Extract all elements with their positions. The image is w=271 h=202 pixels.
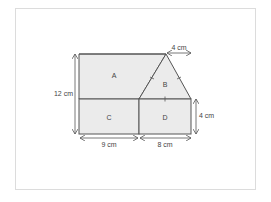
composite-shape-diagram: A B C D 12 cm 4 cm 4 cm 9 cm 8 cm (0, 0, 271, 202)
label-d: D (162, 114, 167, 121)
label-a: A (112, 72, 117, 79)
dimension-label-height: 12 cm (54, 90, 73, 97)
label-c: C (106, 114, 111, 121)
dimension-label-bottom-right: 8 cm (157, 141, 172, 148)
dimension-label-top: 4 cm (171, 44, 186, 51)
dimension-label-bottom-left: 9 cm (101, 141, 116, 148)
dimension-label-right: 4 cm (199, 112, 214, 119)
label-b: B (163, 81, 168, 88)
